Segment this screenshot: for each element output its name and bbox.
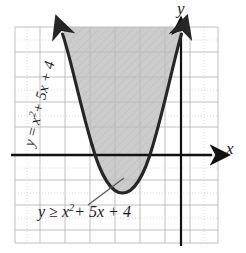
inequality-caption: y ≥ x2+ 5x + 4 bbox=[38, 203, 131, 220]
axis-label-x: x bbox=[226, 140, 234, 157]
axis-label-y: y bbox=[177, 0, 185, 17]
inequality-rhs-rest: + 5x + 4 bbox=[74, 203, 131, 220]
inequality-rhs-base: x bbox=[62, 203, 69, 220]
inequality-relation: ≥ bbox=[45, 203, 62, 220]
figure-container: y x y = x2+ 5x + 4 y ≥ x2+ 5x + 4 bbox=[0, 0, 246, 253]
